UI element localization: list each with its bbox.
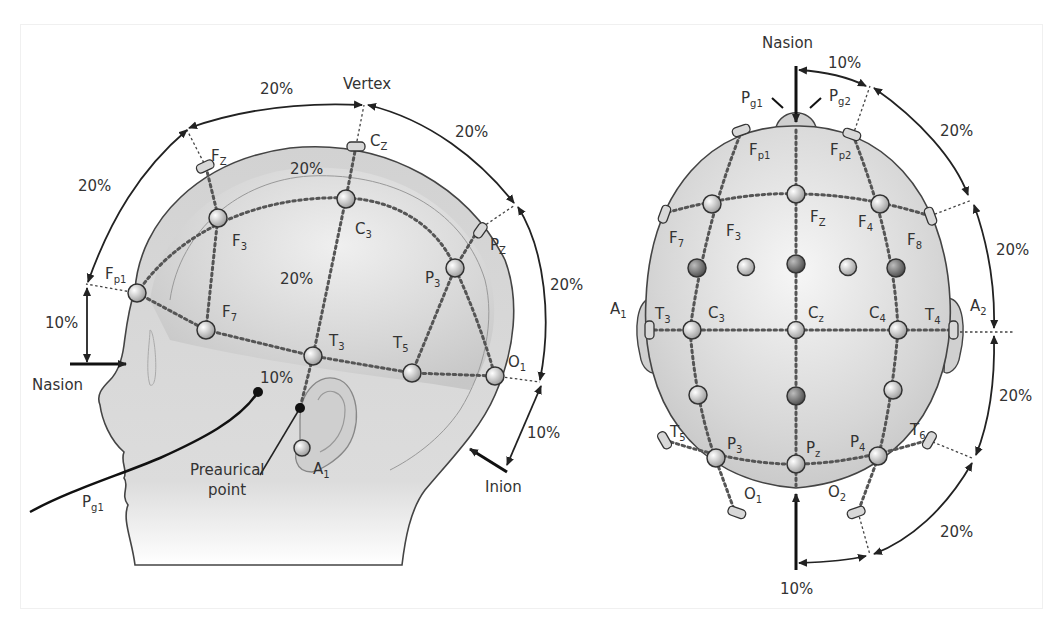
top-nasion-label: Nasion <box>762 34 813 52</box>
side-label-fp1: Fp1 <box>105 265 126 285</box>
side-label-o1: O1 <box>508 353 526 373</box>
side-label-fz: FZ <box>211 147 227 167</box>
top-label-o1: O1 <box>744 485 762 505</box>
preauricular-label-line1: Preaurical <box>190 461 265 479</box>
top-label-o2: O2 <box>828 483 846 503</box>
top-pct-lower-right: 20% <box>940 523 973 541</box>
inion-label: Inion <box>485 478 522 496</box>
side-pct-left: 20% <box>78 177 111 195</box>
top-label-a2: A2 <box>970 297 987 317</box>
side-pct-inion-gap: 10% <box>527 424 560 442</box>
side-pct-top-right: 20% <box>455 123 488 141</box>
top-pct-mid-upper-right: 20% <box>996 241 1029 259</box>
side-label-pz: PZ <box>490 236 506 256</box>
side-pct-top-left: 20% <box>260 80 293 98</box>
top-view: Nasion 10% 20% 20% 20% 20% 10% Pg1 Pg2 F… <box>610 34 1032 598</box>
top-label-a1: A1 <box>610 300 627 320</box>
eeg-10-20-diagram: 20% Vertex 20% 20% 20% 20% 20% 10% 10% 1… <box>0 0 1063 627</box>
side-view: 20% Vertex 20% 20% 20% 20% 20% 10% 10% 1… <box>30 75 583 565</box>
side-nasion-label: Nasion <box>32 376 83 394</box>
top-label-pg2: Pg2 <box>829 87 851 107</box>
top-label-pg1: Pg1 <box>741 89 763 109</box>
side-pct-preauricular-gap: 10% <box>260 369 293 387</box>
preauricular-label-line2: point <box>208 481 246 499</box>
top-pct-bottom: 10% <box>780 580 813 598</box>
top-pct-top: 10% <box>828 54 861 72</box>
side-label-pg1: Pg1 <box>82 493 104 513</box>
side-pct-nasion-gap: 10% <box>45 314 78 332</box>
side-pct-inner-top: 20% <box>290 160 323 178</box>
side-label-cz: CZ <box>370 132 387 152</box>
top-label-t6: T6 <box>909 421 926 441</box>
top-head-outline <box>646 126 951 488</box>
vertex-label: Vertex <box>343 75 391 93</box>
top-pct-upper-right: 20% <box>940 122 973 140</box>
side-pct-right: 20% <box>550 276 583 294</box>
side-pct-inner-center: 20% <box>280 270 313 288</box>
top-pct-mid-lower-right: 20% <box>999 387 1032 405</box>
